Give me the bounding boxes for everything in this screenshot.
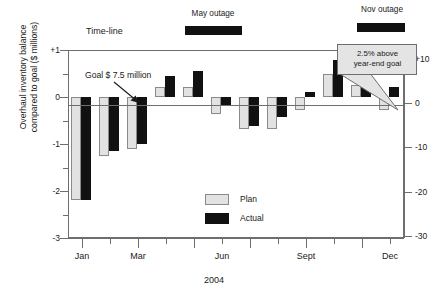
y-tick-label-right-0: +10	[415, 55, 429, 64]
bar-apr-plan	[155, 87, 165, 97]
legend-item-plan: Plan	[205, 192, 264, 206]
x-axis	[68, 238, 404, 239]
bar-apr-actual	[165, 76, 175, 97]
x-tick-jun	[222, 239, 223, 244]
nov-outage-label: Nov outage	[361, 6, 403, 14]
x-tick-nov	[362, 239, 363, 248]
x-tick-sept	[306, 239, 307, 248]
x-tick-aug	[278, 239, 279, 244]
y-tick-label-right-1: 0	[415, 99, 420, 108]
x-tick-label-mar: Mar	[130, 252, 146, 261]
legend-label-plan: Plan	[240, 195, 257, 204]
x-tick-jul	[250, 239, 251, 248]
y-tick-left-minor-1	[63, 121, 68, 122]
y-tick-left-3	[60, 191, 68, 192]
may-outage-bar	[185, 26, 242, 35]
legend-swatch-actual	[205, 213, 229, 224]
callout-line-1: 2.5% above	[342, 49, 413, 59]
bar-may-actual	[193, 71, 203, 97]
legend-item-actual: Actual	[205, 211, 264, 225]
legend-swatch-plan	[205, 194, 229, 205]
x-tick-label-sept: Sept	[297, 252, 316, 261]
x-tick-oct	[334, 239, 335, 244]
y-tick-label-left-0: +1	[50, 46, 60, 55]
bar-jan-actual	[81, 97, 91, 200]
goal-arrow-icon	[112, 80, 146, 106]
callout-box: 2.5% above year-end goal	[337, 44, 417, 75]
y-axis-title: Overhaul inventory balance compared to g…	[18, 0, 40, 172]
y-tick-left-minor-3	[63, 215, 68, 216]
bar-sept-plan	[295, 97, 305, 110]
x-axis-title: 2004	[0, 275, 448, 285]
goal-annotation-label: Goal $ 7.5 million	[85, 71, 151, 80]
x-tick-dec	[390, 239, 391, 244]
callout-line-2: year-end goal	[342, 59, 413, 69]
bar-sept-actual	[305, 92, 315, 97]
y-tick-left-2	[60, 144, 68, 145]
x-tick-jan	[82, 239, 83, 248]
nov-outage-bar	[357, 23, 405, 32]
y-tick-label-left-4: -3	[52, 234, 60, 243]
y-axis-left	[68, 50, 69, 238]
y-tick-right-2	[404, 147, 412, 148]
bar-jul-plan	[239, 97, 249, 129]
y-tick-left-4	[60, 238, 68, 239]
x-tick-mar	[138, 239, 139, 248]
bar-jun-actual	[221, 97, 231, 105]
y-tick-left-minor-2	[63, 168, 68, 169]
x-tick-may	[194, 239, 195, 248]
y-tick-left-0	[60, 50, 68, 51]
y-tick-label-right-3: -20	[415, 188, 427, 197]
bar-jul-actual	[249, 97, 259, 126]
y-tick-left-minor-0	[63, 74, 68, 75]
bar-jan-plan	[71, 97, 81, 200]
bar-aug-actual	[277, 97, 287, 117]
x-tick-feb	[110, 239, 111, 244]
y-tick-label-right-4: -30	[415, 232, 427, 241]
x-tick-label-jan: Jan	[75, 252, 90, 261]
bar-may-plan	[183, 87, 193, 97]
legend: Plan Actual	[205, 192, 264, 230]
bar-aug-plan	[267, 97, 277, 129]
y-tick-label-left-3: -2	[52, 187, 60, 196]
y-tick-label-right-2: -10	[415, 143, 427, 152]
y-tick-left-1	[60, 97, 68, 98]
y-tick-right-3	[404, 192, 412, 193]
x-tick-label-jun: Jun	[215, 252, 230, 261]
legend-label-actual: Actual	[240, 214, 264, 223]
y-tick-label-left-1: 0	[55, 93, 60, 102]
y-tick-right-4	[404, 236, 412, 237]
timeline-label: Time-line	[86, 27, 123, 36]
x-axis-title-text: 2004	[204, 275, 224, 285]
x-tick-label-dec: Dec	[382, 252, 398, 261]
may-outage-label: May outage	[192, 10, 235, 18]
y-tick-label-left-2: -1	[52, 140, 60, 149]
chart-canvas: Time-line May outage Nov outage Overhaul…	[0, 0, 448, 300]
x-tick-apr	[166, 239, 167, 244]
